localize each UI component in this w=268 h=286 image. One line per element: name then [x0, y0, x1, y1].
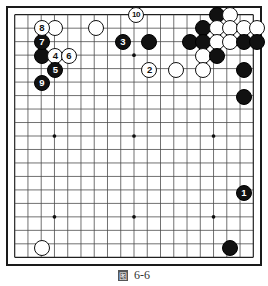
- move-stone-8[interactable]: 8: [34, 20, 50, 36]
- stone-black[interactable]: [222, 240, 238, 256]
- stone-move-number: 8: [35, 21, 49, 35]
- move-stone-10[interactable]: 10: [128, 7, 144, 23]
- stone-black[interactable]: [236, 62, 252, 78]
- stone-move-number: 5: [48, 63, 62, 77]
- move-stone-1[interactable]: 1: [236, 185, 252, 201]
- stone-move-number: 7: [35, 35, 49, 49]
- move-stone-9[interactable]: 9: [34, 75, 50, 91]
- move-stone-3[interactable]: 3: [115, 34, 131, 50]
- stone-black[interactable]: [209, 48, 225, 64]
- move-stone-6[interactable]: 6: [61, 48, 77, 64]
- stone-white[interactable]: [195, 62, 211, 78]
- stone-move-number: 1: [237, 186, 251, 200]
- move-stone-5[interactable]: 5: [47, 62, 63, 78]
- stone-black[interactable]: [249, 34, 265, 50]
- figure-caption: 图 6-6: [0, 268, 268, 286]
- stone-move-number: 2: [142, 63, 156, 77]
- stone-move-number: 3: [116, 35, 130, 49]
- stone-move-number: 6: [62, 49, 76, 63]
- stone-black[interactable]: [236, 89, 252, 105]
- move-stone-7[interactable]: 7: [34, 34, 50, 50]
- go-diagram-figure: 12345678910 图 6-6: [0, 0, 268, 286]
- figure-tag-icon: 图: [118, 270, 128, 281]
- go-board[interactable]: 12345678910: [6, 6, 262, 266]
- stone-move-number: 9: [35, 76, 49, 90]
- move-stone-2[interactable]: 2: [141, 62, 157, 78]
- stone-white[interactable]: [34, 240, 50, 256]
- stone-move-number: 10: [129, 8, 143, 22]
- stone-white[interactable]: [88, 20, 104, 36]
- figure-caption-number: 6-6: [134, 268, 150, 283]
- stone-white[interactable]: [168, 62, 184, 78]
